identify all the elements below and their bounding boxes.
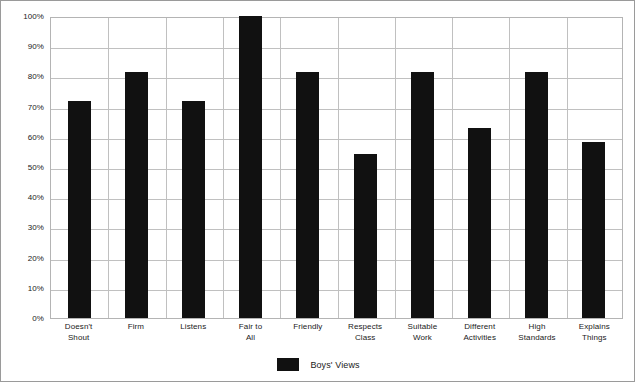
legend-item-label: Boys' Views (310, 360, 359, 370)
x-axis-tick-label: RespectsClass (336, 322, 393, 343)
legend-color-swatch-icon (277, 358, 299, 371)
y-axis-tick-label: 50% (28, 164, 44, 172)
bar-slot (508, 18, 565, 318)
x-axis-tick-label: Fair toAll (222, 322, 279, 343)
bars-layer (51, 18, 622, 318)
x-axis-tick-label: Listens (165, 322, 222, 343)
bar-chart-figure: 0%10%20%30%40%50%60%70%80%90%100% Doesn'… (0, 0, 635, 382)
y-axis-tick-label: 60% (28, 134, 44, 142)
x-axis-tick-label-line: Firm (107, 322, 164, 333)
y-axis: 0%10%20%30%40%50%60%70%80%90%100% (1, 1, 49, 382)
bar[interactable] (354, 154, 377, 318)
x-axis-tick-label-line: Work (394, 333, 451, 344)
bar-slot (108, 18, 165, 318)
y-axis-tick-label: 80% (28, 73, 44, 81)
x-axis-tick-label: Doesn'tShout (50, 322, 107, 343)
x-axis: Doesn'tShoutFirmListensFair toAllFriendl… (50, 322, 623, 343)
bar-slot (279, 18, 336, 318)
bar-slot (165, 18, 222, 318)
x-axis-tick-label-line: Class (336, 333, 393, 344)
bar-slot (394, 18, 451, 318)
x-axis-tick-label-line: Different (451, 322, 508, 333)
x-axis-tick-label: HighStandards (508, 322, 565, 343)
bar-slot (336, 18, 393, 318)
bar[interactable] (411, 72, 434, 318)
bar[interactable] (125, 72, 148, 318)
x-axis-tick-label: Friendly (279, 322, 336, 343)
x-axis-tick-label-line: All (222, 333, 279, 344)
bar-slot (451, 18, 508, 318)
x-axis-tick-label-line: Respects (336, 322, 393, 333)
x-axis-tick-label-line: Friendly (279, 322, 336, 333)
bar[interactable] (239, 16, 262, 318)
x-axis-tick-label-line: Things (566, 333, 623, 344)
y-axis-tick-label: 100% (23, 13, 44, 21)
bar-slot (565, 18, 622, 318)
x-axis-tick-label: DifferentActivities (451, 322, 508, 343)
x-axis-tick-label: SuitableWork (394, 322, 451, 343)
chart-legend: Boys' Views (1, 358, 635, 371)
bar[interactable] (182, 101, 205, 318)
x-axis-tick-label-line: Explains (566, 322, 623, 333)
x-axis-tick-label-line: Shout (50, 333, 107, 344)
bar[interactable] (468, 128, 491, 318)
x-axis-tick-label-line: Activities (451, 333, 508, 344)
bar-slot (222, 18, 279, 318)
x-axis-tick-label: ExplainsThings (566, 322, 623, 343)
y-axis-tick-label: 20% (28, 255, 44, 263)
x-axis-tick-label-line: Suitable (394, 322, 451, 333)
y-axis-tick-label: 90% (28, 43, 44, 51)
bar[interactable] (525, 72, 548, 318)
y-axis-tick-label: 70% (28, 104, 44, 112)
y-axis-tick-label: 40% (28, 194, 44, 202)
x-axis-tick-label-line: Fair to (222, 322, 279, 333)
x-axis-tick-label-line: Listens (165, 322, 222, 333)
y-axis-tick-label: 10% (28, 285, 44, 293)
bar-slot (51, 18, 108, 318)
x-axis-tick-label-line: Doesn't (50, 322, 107, 333)
y-axis-tick-label: 30% (28, 224, 44, 232)
y-axis-tick-label: 0% (32, 315, 44, 323)
bar[interactable] (296, 72, 319, 318)
bar[interactable] (582, 142, 605, 318)
plot-area (50, 17, 623, 319)
x-axis-tick-label-line: High (508, 322, 565, 333)
legend-item-boys-views: Boys' Views (277, 358, 359, 371)
bar[interactable] (68, 101, 91, 318)
x-axis-tick-label: Firm (107, 322, 164, 343)
x-axis-tick-label-line: Standards (508, 333, 565, 344)
